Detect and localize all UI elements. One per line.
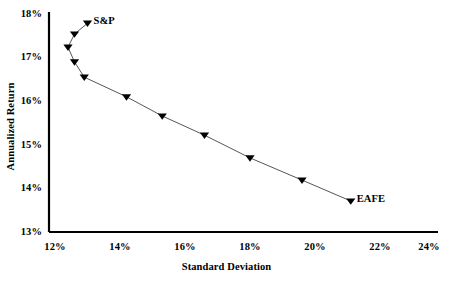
data-point-marker	[80, 75, 89, 81]
chart-container: Annualized Return 18% 17% 16% 15% 14% 13…	[0, 0, 453, 281]
frontier-line	[68, 23, 351, 201]
data-point-marker	[70, 31, 79, 37]
data-point-marker	[122, 94, 131, 100]
data-point-marker	[297, 178, 306, 184]
plot-area	[0, 0, 453, 281]
data-point-marker	[158, 113, 167, 119]
annotation-label-sp: S&P	[94, 15, 115, 26]
data-point-marker	[245, 155, 254, 161]
annotation-label-eafe: EAFE	[357, 193, 385, 204]
data-point-marker	[63, 45, 72, 51]
frontier-markers	[63, 21, 355, 205]
data-point-marker	[200, 133, 209, 139]
data-point-marker	[70, 59, 79, 65]
data-point-marker	[346, 198, 355, 204]
